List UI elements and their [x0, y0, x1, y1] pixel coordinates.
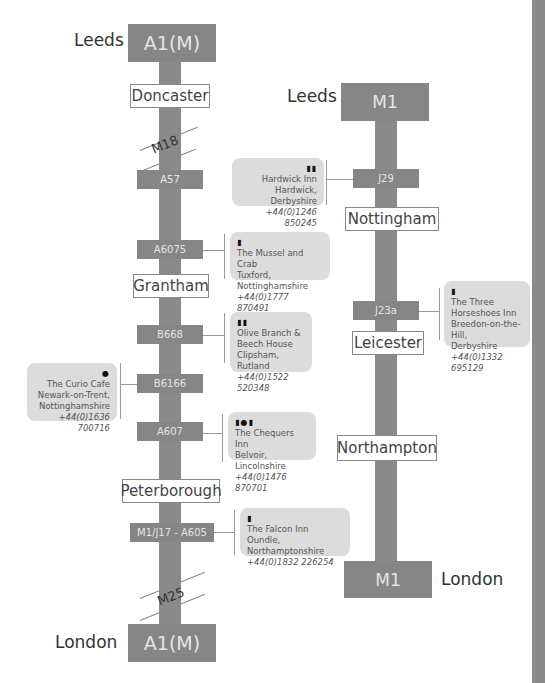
venue-place: Breedon-on-the-Hill,: [451, 319, 523, 341]
town-nottingham: Nottingham: [345, 207, 439, 231]
junction-a607: A607: [137, 422, 203, 441]
junction-b6166: B6166: [137, 374, 203, 393]
m1-bottom-destination: London: [441, 569, 503, 589]
connector-line: [121, 384, 137, 385]
a1m-bottom-road-label: A1(M): [144, 632, 200, 654]
venue-place: Oundle, Northamptonshire: [247, 535, 343, 557]
town-doncaster: Doncaster: [130, 84, 210, 108]
venue-card-mussel-and-crab[interactable]: ▮ The Mussel and Crab Tuxford, Nottingha…: [230, 232, 330, 280]
town-leicester: Leicester: [352, 331, 424, 355]
pub-icon: ▮: [237, 237, 323, 248]
venue-name: Hardwick Inn: [239, 174, 317, 185]
venue-phone: +44(0)1522 520348: [237, 372, 305, 394]
connector-line: [419, 311, 439, 312]
venue-name: The Mussel and Crab: [237, 248, 323, 270]
venue-card-curio-cafe[interactable]: ● The Curio Cafe Newark-on-Trent, Nottin…: [27, 363, 117, 421]
town-grantham: Grantham: [133, 274, 209, 298]
venue-card-three-horseshoes[interactable]: ▮ The Three Horseshoes Inn Breedon-on-th…: [444, 281, 530, 347]
m1-top-road-sign: M1: [341, 83, 429, 121]
venue-place-line2: Nottinghamshire: [34, 401, 110, 412]
venue-phone: +44(0)1777 870491: [237, 292, 323, 314]
junction-j23a: J23a: [353, 301, 419, 320]
connector-bracket: [120, 363, 121, 419]
venue-place: Tuxford, Nottinghamshire: [237, 270, 323, 292]
connector-bracket: [234, 510, 235, 555]
connector-bracket: [224, 234, 225, 279]
connector-line: [203, 433, 222, 434]
venue-phone: +44(0)1246 850245: [239, 207, 317, 229]
m1-bottom-road-label: M1: [375, 570, 400, 590]
connector-line: [203, 250, 224, 251]
venue-place: Belvoir, Lincolnshire: [235, 450, 309, 472]
connector-line: [327, 179, 353, 180]
pub-icon: ▮: [451, 286, 523, 297]
venue-card-hardwick-inn[interactable]: ▮▮ Hardwick Inn Hardwick, Derbyshire +44…: [232, 158, 324, 206]
connector-line: [203, 335, 224, 336]
junction-m1-j17-a605: M1/J17 - A605: [130, 523, 214, 542]
venue-card-olive-branch[interactable]: ▮▮ Olive Branch & Beech House Clipsham, …: [230, 312, 312, 372]
venue-name: The Chequers Inn: [235, 428, 309, 450]
venue-name-line2: Horseshoes Inn: [451, 308, 523, 319]
venue-phone: +44(0)1636 700716: [34, 412, 110, 434]
venue-phone: +44(0)1832 226254: [247, 557, 343, 568]
connector-bracket: [222, 414, 223, 462]
venue-name-line2: Beech House: [237, 339, 305, 350]
venue-place: Clipsham, Rutland: [237, 350, 305, 372]
connector-bracket: [439, 288, 440, 340]
venue-place: Newark-on-Trent,: [34, 390, 110, 401]
restaurant-pub-icon: ▮▮: [237, 317, 305, 328]
a1m-top-destination: Leeds: [74, 30, 124, 50]
venue-name: The Three: [451, 297, 523, 308]
a1m-top-road-sign: A1(M): [128, 24, 216, 62]
venue-name: The Falcon Inn: [247, 524, 343, 535]
venue-place-line2: Derbyshire: [451, 341, 523, 352]
junction-j29: J29: [353, 169, 419, 188]
town-northampton: Northampton: [337, 435, 437, 461]
venue-phone: +44(0)1332 695129: [451, 352, 523, 374]
a1m-bottom-road-sign: A1(M): [128, 624, 216, 662]
pub-restaurant-icon: ▮▮: [239, 163, 317, 174]
junction-b668: B668: [137, 325, 203, 344]
venue-place: Hardwick, Derbyshire: [239, 185, 317, 207]
venue-card-chequers-inn[interactable]: ▮●▮ The Chequers Inn Belvoir, Lincolnshi…: [228, 412, 316, 460]
connector-line: [214, 532, 234, 533]
restaurant-cafe-pub-icon: ▮●▮: [235, 417, 309, 428]
venue-name: Olive Branch &: [237, 328, 305, 339]
m1-top-road-label: M1: [372, 92, 397, 112]
connector-bracket: [326, 160, 327, 205]
venue-card-falcon-inn[interactable]: ▮ The Falcon Inn Oundle, Northamptonshir…: [240, 508, 350, 556]
m1-top-destination: Leeds: [287, 86, 337, 106]
venue-name: The Curio Cafe: [34, 379, 110, 390]
junction-a57: A57: [137, 170, 203, 189]
junction-a6075: A6075: [137, 240, 203, 259]
venue-phone: +44(0)1476 870701: [235, 472, 309, 494]
cafe-icon: ●: [34, 368, 110, 379]
pub-icon: ▮: [247, 513, 343, 524]
page-edge-strip: [532, 0, 545, 683]
a1m-top-road-label: A1(M): [144, 32, 200, 54]
a1m-bottom-destination: London: [55, 632, 117, 652]
m1-bottom-road-sign: M1: [344, 561, 432, 598]
town-peterborough: Peterborough: [122, 479, 220, 503]
connector-bracket: [224, 313, 225, 363]
